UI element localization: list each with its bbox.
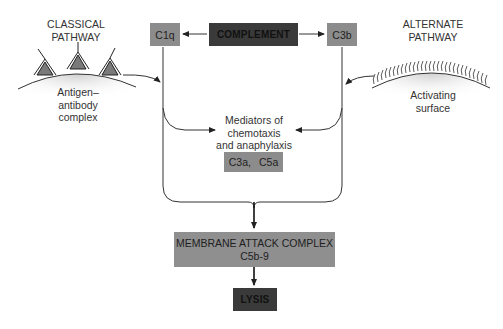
alternate-pathway-heading: ALTERNATE PATHWAY [397,18,469,43]
c3a-label: C3a, [229,156,251,168]
mac-title: MEMBRANE ATTACK COMPLEX [176,237,333,250]
c5a-label: C5a [259,156,278,168]
mediators-line2: chemotaxis [213,127,295,140]
antigen-antibody-label: Antigen– antibody complex [45,86,111,124]
anaphylatoxin-box: C3a, C5a [224,152,283,172]
classical-surface-line1: Antigen– [45,86,111,99]
complement-box: COMPLEMENT [209,23,298,46]
c3b-box: C3b [327,23,357,46]
activating-surface-label: Activating surface [400,89,466,114]
c1q-box: C1q [150,23,180,46]
alternate-heading-line1: ALTERNATE [397,18,469,31]
arrow-classical-to-mediators [163,108,215,130]
c3b-label: C3b [332,29,351,41]
c1q-label: C1q [155,29,174,41]
classical-surface-line3: complex [45,111,111,124]
classical-heading-line2: PATHWAY [40,31,112,44]
classical-heading-line1: CLASSICAL [40,18,112,31]
classical-surface-line2: antibody [45,99,111,112]
lysis-box: LYSIS [233,288,277,311]
mediators-label: Mediators of chemotaxis and anaphylaxis [213,114,295,152]
lysis-label: LYSIS [241,294,270,305]
mediators-line3: and anaphylaxis [213,139,295,152]
alternate-surface-line1: Activating [400,89,466,102]
arrow-alternate-to-mediators [296,108,342,130]
alternate-surface-line2: surface [400,102,466,115]
alternate-heading-line2: PATHWAY [397,31,469,44]
mediators-line1: Mediators of [213,114,295,127]
complement-label: COMPLEMENT [217,29,290,40]
arrow-alternate-surface [346,76,374,84]
classical-pathway-heading: CLASSICAL PATHWAY [40,18,112,43]
membrane-attack-complex-box: MEMBRANE ATTACK COMPLEX C5b-9 [174,232,335,267]
mac-subtitle: C5b-9 [240,250,269,263]
arrow-classical-surface [123,75,160,82]
